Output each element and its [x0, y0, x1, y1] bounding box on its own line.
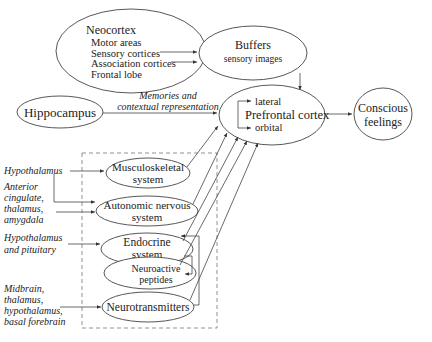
conscious-line1: Conscious: [358, 101, 408, 115]
input-midbrain: thalamus,: [4, 294, 43, 305]
peptides-line2: peptides: [139, 274, 172, 285]
buffers-node: [199, 26, 307, 80]
edge-label: contextual representation: [117, 101, 219, 112]
hippocampus-title: Hippocampus: [24, 105, 96, 120]
neocortex-item: Frontal lobe: [91, 69, 142, 80]
buffers-subtitle: sensory images: [224, 54, 283, 64]
input-anterior: thalamus,: [4, 203, 43, 214]
conscious-line2: feelings: [364, 115, 402, 129]
musculoskeletal-line2: system: [133, 173, 164, 185]
input-midbrain: hypothalamus,: [4, 305, 63, 316]
edge-label: Memories and: [138, 90, 197, 101]
prefrontal-lateral: lateral: [255, 96, 281, 107]
input-anterior: Anterior: [3, 181, 38, 192]
emotion-diagram: Neocortex Motor areas Sensory cortices A…: [0, 0, 432, 342]
musculoskeletal-line1: Musculoskeletal: [112, 161, 184, 173]
neocortex-item: Association cortices: [91, 58, 176, 69]
input-midbrain: Midbrain,: [3, 283, 44, 294]
input-hypothalamus: Hypothalamus: [3, 165, 62, 176]
endocrine-line1: Endocrine: [123, 236, 170, 248]
prefrontal-orbital: orbital: [255, 122, 282, 133]
peptides-line1: Neuroactive: [132, 263, 181, 274]
autonomic-line2: system: [132, 211, 163, 223]
input-hypo-pituitary: and pituitary: [4, 244, 57, 255]
input-anterior: cingulate,: [4, 192, 44, 203]
autonomic-line1: Autonomic nervous: [103, 199, 190, 211]
neocortex-title: Neocortex: [86, 23, 136, 37]
neurotransmitters-title: Neurotransmitters: [106, 301, 190, 313]
input-hypo-pituitary: Hypothalamus: [3, 232, 62, 243]
input-anterior: amygdala: [4, 214, 43, 225]
input-midbrain: basal forebrain: [4, 316, 66, 327]
buffers-title: Buffers: [235, 38, 271, 52]
neocortex-item: Motor areas: [91, 37, 141, 48]
prefrontal-title: Prefrontal cortex: [245, 108, 330, 122]
